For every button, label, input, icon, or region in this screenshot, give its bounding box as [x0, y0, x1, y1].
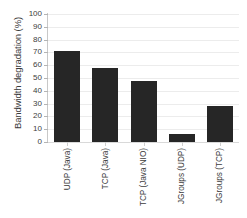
x-tick-mark	[67, 142, 68, 146]
bar-chart-figure: Bandwidth degradation (%) 01020304050607…	[0, 0, 247, 218]
x-tick-label: JGroups (UDP)	[176, 148, 187, 218]
y-tick-mark	[44, 104, 48, 105]
bar	[131, 81, 157, 142]
gridline	[48, 40, 239, 41]
gridline	[48, 14, 239, 15]
bar	[207, 106, 233, 142]
gridline	[48, 27, 239, 28]
y-tick-mark	[44, 14, 48, 15]
y-tick-mark	[44, 129, 48, 130]
x-tick-mark	[220, 142, 221, 146]
x-tick-label: UDP (Java)	[62, 148, 73, 218]
x-tick-mark	[105, 142, 106, 146]
y-tick-label: 90	[20, 23, 42, 31]
y-tick-label: 70	[20, 48, 42, 56]
y-tick-mark	[44, 142, 48, 143]
y-tick-mark	[44, 52, 48, 53]
y-tick-mark	[44, 78, 48, 79]
y-tick-mark	[44, 65, 48, 66]
bar	[92, 68, 118, 142]
y-tick-mark	[44, 27, 48, 28]
x-tick-label: JGroups (TCP)	[214, 148, 225, 218]
y-tick-mark	[44, 40, 48, 41]
y-tick-label: 30	[20, 100, 42, 108]
bar	[169, 134, 195, 142]
x-tick-mark	[182, 142, 183, 146]
y-tick-mark	[44, 91, 48, 92]
y-tick-label: 20	[20, 112, 42, 120]
y-tick-label: 50	[20, 74, 42, 82]
plot-area	[48, 14, 239, 142]
y-axis-tick-labels: 0102030405060708090100	[18, 0, 42, 218]
x-tick-label: TCP (Java NIO)	[138, 148, 149, 218]
y-tick-label: 40	[20, 87, 42, 95]
x-tick-mark	[144, 142, 145, 146]
y-tick-label: 0	[20, 138, 42, 146]
y-tick-label: 10	[20, 125, 42, 133]
bar	[54, 51, 80, 142]
y-tick-mark	[44, 116, 48, 117]
x-tick-label: TCP (Java)	[100, 148, 111, 218]
y-tick-label: 100	[20, 10, 42, 18]
y-tick-label: 80	[20, 36, 42, 44]
y-tick-label: 60	[20, 61, 42, 69]
